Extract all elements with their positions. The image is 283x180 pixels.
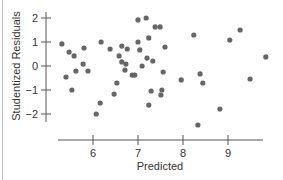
data-point: [119, 44, 124, 49]
data-point: [263, 54, 268, 59]
x-tick-label: 7: [135, 147, 141, 159]
data-point: [146, 35, 151, 40]
data-point: [159, 87, 164, 92]
data-point: [162, 44, 167, 49]
data-point: [85, 68, 90, 73]
data-point: [153, 24, 158, 29]
x-axis: 6789: [58, 135, 263, 159]
data-point: [140, 63, 145, 68]
y-tick-label: −1: [25, 84, 38, 96]
data-point: [248, 76, 253, 81]
data-point: [150, 58, 155, 63]
data-point: [94, 111, 99, 116]
y-axis-title: Studentized Residuals: [10, 11, 22, 121]
data-point: [117, 53, 122, 58]
data-point: [69, 87, 74, 92]
data-point: [132, 73, 137, 78]
data-point: [144, 56, 149, 61]
data-point: [144, 15, 149, 20]
data-point: [195, 122, 200, 127]
data-point: [108, 46, 113, 51]
data-point: [122, 68, 127, 73]
data-point: [158, 92, 163, 97]
data-point: [114, 80, 119, 85]
data-point: [198, 71, 203, 76]
data-point: [217, 106, 222, 111]
scatter-chart: 210−1−2 6789 Studentized Residuals Predi…: [0, 0, 283, 180]
data-point: [81, 45, 86, 50]
data-point: [161, 69, 166, 74]
y-tick-label: 1: [32, 36, 38, 48]
y-axis: 210−1−2: [25, 12, 51, 122]
data-point: [63, 74, 68, 79]
data-point: [99, 39, 104, 44]
data-point: [123, 62, 128, 67]
y-tick-label: 2: [32, 12, 38, 24]
y-tick-label: 0: [32, 60, 38, 72]
data-point: [135, 17, 140, 22]
data-point: [125, 46, 130, 51]
data-point: [81, 62, 86, 67]
data-point: [238, 27, 243, 32]
data-point: [146, 103, 151, 108]
data-point: [73, 68, 78, 73]
data-point: [98, 100, 103, 105]
x-tick-label: 8: [180, 147, 186, 159]
data-point: [179, 77, 184, 82]
data-point: [72, 53, 77, 58]
data-point: [137, 47, 142, 52]
x-tick-label: 9: [225, 147, 231, 159]
data-point: [135, 39, 140, 44]
data-point: [227, 38, 232, 43]
data-point: [200, 80, 205, 85]
data-point: [112, 92, 117, 97]
x-axis-title: Predicted: [137, 160, 183, 172]
data-point: [59, 41, 64, 46]
x-tick-label: 6: [90, 147, 96, 159]
data-points: [59, 15, 268, 127]
data-point: [158, 24, 163, 29]
y-tick-label: −2: [25, 108, 38, 120]
data-point: [67, 50, 72, 55]
data-point: [149, 88, 154, 93]
data-point: [191, 32, 196, 37]
